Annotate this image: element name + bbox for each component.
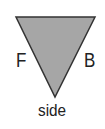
label-back: B — [84, 50, 95, 70]
label-side: side — [38, 102, 66, 119]
diagram-canvas: F B side — [0, 0, 105, 129]
label-front: F — [16, 50, 26, 70]
